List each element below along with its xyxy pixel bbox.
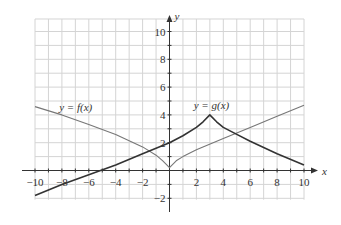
g-label: y = g(x): [193, 99, 230, 112]
x-tick-label: 6: [247, 176, 253, 188]
x-axis-arrow-icon: [311, 168, 318, 174]
function-graph: xy−10−8−6−4−2246810−2246810y = f(x)y = g…: [0, 0, 341, 225]
x-tick-label: −10: [26, 176, 44, 188]
y-axis-label: y: [174, 10, 180, 22]
y-tick-label: 4: [160, 109, 166, 121]
x-tick-label: 2: [194, 176, 200, 188]
x-tick-label: 10: [299, 176, 311, 188]
y-tick-label: −2: [154, 192, 166, 204]
x-tick-label: −4: [110, 176, 122, 188]
x-tick-label: 8: [274, 176, 280, 188]
y-tick-label: 8: [160, 53, 166, 65]
y-tick-label: 6: [160, 81, 166, 93]
x-tick-label: −2: [137, 176, 149, 188]
f-label: y = f(x): [58, 101, 92, 114]
x-tick-label: 4: [221, 176, 227, 188]
x-axis-label: x: [321, 165, 327, 177]
y-tick-label: 10: [155, 26, 167, 38]
x-tick-label: −6: [83, 176, 95, 188]
